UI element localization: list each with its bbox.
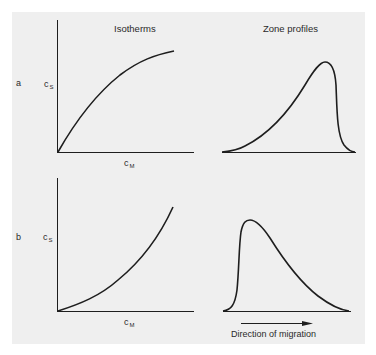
x-var-b: c <box>124 317 129 327</box>
x-var-a: c <box>124 158 129 168</box>
isotherm-curve-b <box>58 207 173 311</box>
zone-curve-b <box>223 220 349 311</box>
x-axis-label-a: cM <box>124 159 135 168</box>
y-sub-a: S <box>50 84 54 90</box>
y-axis-label-b: cS <box>43 233 53 242</box>
header-isotherms: Isotherms <box>114 24 156 34</box>
isotherm-b <box>57 178 194 312</box>
migration-label: Direction of migration <box>231 330 316 339</box>
diagram-canvas <box>0 0 376 355</box>
migration-arrow-icon <box>241 321 313 326</box>
x-sub-b: M <box>130 322 135 328</box>
header-zone-profiles: Zone profiles <box>263 24 318 34</box>
zone-curve-a <box>222 62 355 152</box>
y-var-b: c <box>43 232 48 242</box>
zone-profile-b <box>223 220 351 312</box>
y-var-a: c <box>44 79 49 89</box>
zone-profile-a <box>222 62 356 153</box>
isotherm-curve-a <box>58 51 174 152</box>
row-label-b: b <box>16 233 21 242</box>
isotherm-a <box>57 20 194 153</box>
row-label-a: a <box>16 79 21 88</box>
x-sub-a: M <box>130 163 135 169</box>
x-axis-label-b: cM <box>124 318 135 327</box>
y-sub-b: S <box>49 237 53 243</box>
y-axis-label-a: cS <box>44 80 54 89</box>
